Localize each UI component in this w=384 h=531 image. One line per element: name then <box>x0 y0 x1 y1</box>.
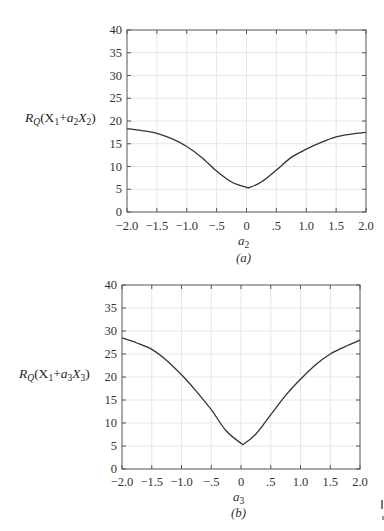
page-edge-mark <box>381 500 383 509</box>
y-tick-label: 5 <box>116 182 122 196</box>
y-tick-label: 5 <box>111 439 117 453</box>
x-tick-label: −.5 <box>208 219 224 233</box>
x-tick-label: 1.0 <box>298 219 314 233</box>
y-tick-label: 30 <box>105 324 118 338</box>
y-tick-label: 0 <box>116 205 122 219</box>
x-tick-label: 0 <box>243 219 249 233</box>
y-tick-label: 25 <box>105 347 118 361</box>
y-axis-label-b: RQ(X1+a3X3) <box>18 366 90 383</box>
grid-lines-b <box>122 285 360 469</box>
y-tick-label: 20 <box>105 370 118 384</box>
x-tick-label: −2.0 <box>111 475 134 489</box>
y-tick-label: 40 <box>110 23 123 37</box>
x-tick-label: 2.0 <box>352 475 368 489</box>
x-tick-label: −1.5 <box>140 475 163 489</box>
y-tick-label: 30 <box>110 69 123 83</box>
x-tick-label: 1.5 <box>322 475 338 489</box>
x-tick-label: .5 <box>272 219 281 233</box>
y-tick-label: 40 <box>105 278 118 292</box>
tick-labels-a: −2.0−1.5−1.0−.50.51.01.52.00510152025303… <box>110 23 374 233</box>
panel-caption-b: (b) <box>231 505 246 520</box>
y-tick-label: 10 <box>110 160 123 174</box>
x-tick-label: −1.0 <box>170 475 193 489</box>
x-axis-label-a: a2 <box>238 233 250 250</box>
x-axis-label-b: a3 <box>233 489 245 506</box>
x-tick-label: −1.5 <box>146 219 169 233</box>
y-tick-label: 25 <box>110 91 123 105</box>
y-axis-label-a: RQ(X1+a2X2) <box>24 110 96 127</box>
x-tick-label: .5 <box>266 475 275 489</box>
grid-lines-a <box>127 30 366 212</box>
x-tick-label: 1.0 <box>293 475 309 489</box>
y-tick-label: 35 <box>110 46 123 60</box>
x-tick-label: −1.0 <box>175 219 198 233</box>
x-tick-label: 0 <box>238 475 244 489</box>
chart-panel-b: −2.0−1.5−1.0−.50.51.01.52.00510152025303… <box>18 278 368 520</box>
x-tick-label: 2.0 <box>358 219 374 233</box>
panel-caption-a: (a) <box>236 250 251 265</box>
y-tick-label: 35 <box>105 301 118 315</box>
y-tick-label: 0 <box>111 462 117 476</box>
x-tick-label: −2.0 <box>116 219 139 233</box>
y-tick-label: 20 <box>110 114 123 128</box>
y-tick-label: 10 <box>105 416 118 430</box>
x-tick-label: 1.5 <box>328 219 344 233</box>
chart-panel-a: −2.0−1.5−1.0−.50.51.01.52.00510152025303… <box>24 23 374 265</box>
tick-labels-b: −2.0−1.5−1.0−.50.51.01.52.00510152025303… <box>105 278 368 489</box>
y-tick-label: 15 <box>105 393 118 407</box>
y-tick-label: 15 <box>110 137 123 151</box>
x-tick-label: −.5 <box>203 475 219 489</box>
figure: −2.0−1.5−1.0−.50.51.01.52.00510152025303… <box>0 0 384 531</box>
